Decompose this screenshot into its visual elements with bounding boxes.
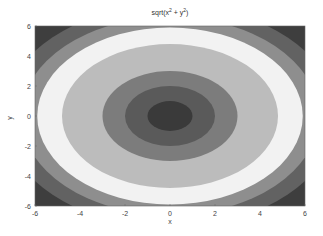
y-tick-label: 4 (27, 53, 31, 60)
y-tick-label: 6 (27, 23, 31, 30)
y-tick-label: -2 (25, 143, 31, 150)
y-axis-label: y (6, 116, 14, 120)
x-tick-label: -6 (32, 210, 38, 217)
contour-bands (4, 5, 323, 227)
x-tick-label: -4 (77, 210, 83, 217)
y-tick-label: -4 (25, 173, 31, 180)
y-tick-label: 2 (27, 83, 31, 90)
y-tick-label: 0 (27, 113, 31, 120)
x-axis-label: x (168, 218, 172, 225)
contour-plot: -6-4-20246 -6-4-20246 x y (0, 0, 323, 236)
y-tick-label: -6 (25, 203, 31, 210)
x-tick-label: 2 (213, 210, 217, 217)
x-tick-label: 4 (258, 210, 262, 217)
contour-band (148, 101, 193, 131)
x-tick-label: -2 (122, 210, 128, 217)
x-tick-label: 0 (168, 210, 172, 217)
x-tick-label: 6 (303, 210, 307, 217)
